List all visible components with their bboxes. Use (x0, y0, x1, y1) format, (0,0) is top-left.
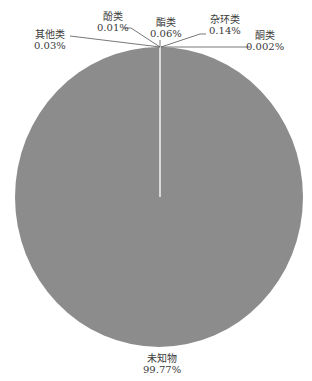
label-unknown-pct: 99.77% (143, 364, 181, 375)
label-phenol: 酚类 0.01% (97, 11, 129, 33)
label-ketone-pct: 0.002% (246, 41, 284, 52)
label-heterocyclic-name: 杂环类 (209, 14, 241, 25)
label-other-name: 其他类 (34, 29, 66, 40)
label-phenol-name: 酚类 (97, 11, 129, 22)
pie-slice-ester (159, 47, 161, 197)
pie-chart (0, 0, 312, 381)
label-heterocyclic-pct: 0.14% (209, 25, 241, 36)
label-phenol-pct: 0.01% (97, 22, 129, 33)
label-ester-name: 酯类 (150, 17, 182, 28)
label-unknown: 未知物 99.77% (143, 353, 181, 375)
label-ketone: 酮类 0.002% (246, 30, 284, 52)
label-ketone-name: 酮类 (246, 30, 284, 41)
label-ester: 酯类 0.06% (150, 17, 182, 39)
label-heterocyclic: 杂环类 0.14% (209, 14, 241, 36)
leader-line-other (70, 36, 160, 47)
label-unknown-name: 未知物 (143, 353, 181, 364)
label-other-pct: 0.03% (34, 40, 66, 51)
label-ester-pct: 0.06% (150, 28, 182, 39)
label-other: 其他类 0.03% (34, 29, 66, 51)
